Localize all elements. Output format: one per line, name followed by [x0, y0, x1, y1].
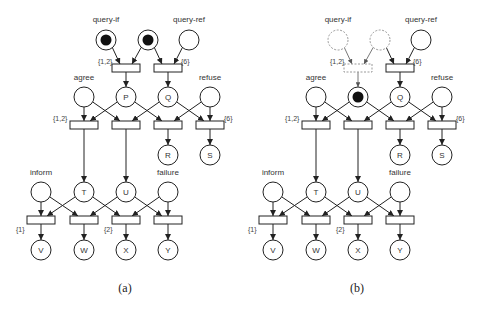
- place-label: Q: [397, 93, 403, 102]
- panel-caption: (a): [118, 281, 131, 295]
- transition-t7: [27, 216, 55, 224]
- place-label: U: [355, 188, 361, 197]
- transition-weight-label: {1,2}: [98, 58, 113, 66]
- place-label: Q: [165, 93, 171, 102]
- panel-caption: (b): [350, 281, 364, 295]
- place-name-label: agree: [74, 73, 95, 82]
- arc-Q-t6: [409, 102, 436, 121]
- token-icon: [353, 92, 364, 103]
- place-label: U: [123, 188, 129, 197]
- arc-U-t10: [135, 197, 162, 216]
- transition-t9: [112, 216, 140, 224]
- place-qmid: [370, 30, 390, 50]
- transition-t7: [259, 216, 287, 224]
- arc-qmid-t2: [154, 48, 162, 64]
- arc-T-t7: [47, 197, 75, 216]
- arc-refuse-t5: [174, 102, 201, 121]
- place-name-label: agree: [306, 73, 327, 82]
- arc-qif-t1: [344, 48, 352, 64]
- transition-t2: [386, 64, 414, 72]
- transition-t6: [196, 121, 224, 129]
- place-name-label: inform: [262, 168, 285, 177]
- transition-t5: [154, 121, 182, 129]
- place-name-label: query-ref: [173, 15, 206, 24]
- transition-t8: [70, 216, 98, 224]
- transition-t9: [344, 216, 372, 224]
- arc-Q-t4: [364, 102, 391, 121]
- place-label: X: [355, 246, 361, 255]
- arc-failure-t9: [364, 197, 391, 216]
- place-name-label: refuse: [199, 73, 222, 82]
- transition-t8: [302, 216, 330, 224]
- arc-P-t5: [367, 102, 394, 121]
- transition-t10: [386, 216, 414, 224]
- transition-weight-label: {6}: [181, 58, 190, 66]
- place-label: R: [397, 151, 403, 160]
- arc-Q-t4: [132, 102, 159, 121]
- place-inform: [263, 182, 283, 202]
- token-icon: [143, 35, 154, 46]
- transition-t1: [112, 64, 140, 72]
- place-qref: [411, 30, 431, 50]
- place-refuse: [432, 87, 452, 107]
- arc-failure-t9: [132, 197, 159, 216]
- arc-T-t9: [325, 197, 352, 216]
- place-label: S: [439, 151, 444, 160]
- arc-Q-t6: [177, 102, 204, 121]
- transition-t3: [70, 121, 98, 129]
- place-name-label: failure: [389, 168, 411, 177]
- transition-t6: [428, 121, 456, 129]
- place-label: W: [80, 246, 88, 255]
- arc-T-t9: [93, 197, 120, 216]
- arc-inform-t8: [50, 197, 78, 216]
- transition-t5: [386, 121, 414, 129]
- transition-t10: [154, 216, 182, 224]
- transition-weight-label: {6}: [413, 58, 422, 66]
- place-agree: [74, 87, 94, 107]
- arc-qmid-t2: [386, 48, 394, 64]
- place-qif: [328, 30, 348, 50]
- arc-qmid-t1: [132, 47, 141, 64]
- place-label: X: [123, 246, 129, 255]
- place-label: Y: [165, 246, 171, 255]
- transition-t1: [344, 64, 372, 72]
- transition-weight-label: {6}: [456, 115, 465, 123]
- arc-U-t10: [367, 197, 394, 216]
- transition-weight-label: {2}: [104, 226, 113, 234]
- place-refuse: [200, 87, 220, 107]
- arc-T-t7: [279, 197, 307, 216]
- place-name-label: query-ref: [405, 15, 438, 24]
- place-agree: [306, 87, 326, 107]
- arc-P-t3: [322, 102, 349, 121]
- place-name-label: failure: [157, 168, 179, 177]
- panel-b: {1,2}{6}{1,2}{6}{1}{2}query-ifquery-refa…: [248, 15, 465, 295]
- place-label: V: [38, 246, 44, 255]
- transition-t4: [112, 121, 140, 129]
- arc-agree-t4: [325, 102, 352, 121]
- arc-qmid-t1: [364, 47, 373, 64]
- transition-weight-label: {1,2}: [53, 115, 68, 123]
- arc-U-t8: [90, 197, 117, 216]
- place-label: R: [165, 151, 171, 160]
- place-qref: [179, 30, 199, 50]
- transition-t4: [344, 121, 372, 129]
- transition-weight-label: {1,2}: [330, 58, 345, 66]
- arc-U-t8: [322, 197, 349, 216]
- arc-refuse-t5: [406, 102, 433, 121]
- place-name-label: inform: [30, 168, 53, 177]
- transition-weight-label: {2}: [336, 226, 345, 234]
- transition-weight-label: {1}: [248, 226, 257, 234]
- place-label: T: [82, 188, 87, 197]
- place-label: S: [207, 151, 212, 160]
- place-failure: [158, 182, 178, 202]
- transition-t3: [302, 121, 330, 129]
- place-name-label: query-if: [325, 15, 352, 24]
- place-label: P: [123, 93, 128, 102]
- place-name-label: refuse: [431, 73, 454, 82]
- arc-P-t5: [135, 102, 162, 121]
- token-icon: [101, 35, 112, 46]
- place-failure: [390, 182, 410, 202]
- place-inform: [31, 182, 51, 202]
- arc-P-t3: [90, 102, 117, 121]
- place-label: Y: [397, 246, 403, 255]
